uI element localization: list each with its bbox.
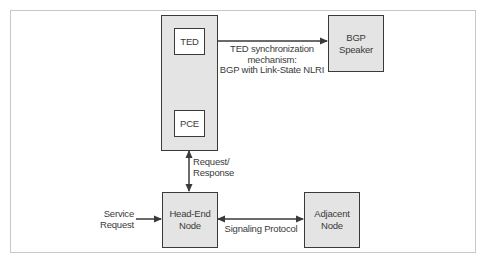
request-response-line1: Request/ bbox=[193, 157, 234, 168]
signaling-label-text: Signaling Protocol bbox=[220, 224, 302, 235]
bgp-speaker-label-line1: BGP bbox=[339, 32, 373, 44]
ted-sync-label: TED synchronization mechanism: BGP with … bbox=[212, 44, 332, 76]
request-response-line2: Response bbox=[193, 168, 234, 179]
head-end-label-line1: Head-End bbox=[169, 208, 210, 220]
ted-node: TED bbox=[174, 28, 205, 55]
adjacent-label-line1: Adjacent bbox=[314, 208, 349, 220]
request-response-label: Request/ Response bbox=[193, 157, 234, 178]
bgp-speaker-label-line2: Speaker bbox=[339, 44, 373, 56]
signaling-label: Signaling Protocol bbox=[220, 224, 302, 235]
bgp-speaker-node: BGP Speaker bbox=[328, 15, 384, 72]
adjacent-label-line2: Node bbox=[314, 220, 349, 232]
head-end-node: Head-End Node bbox=[162, 192, 218, 248]
pce-node: PCE bbox=[174, 110, 205, 137]
pce-label: PCE bbox=[180, 118, 199, 130]
service-request-line2: Request bbox=[90, 220, 134, 231]
adjacent-node: Adjacent Node bbox=[304, 192, 360, 248]
ted-label: TED bbox=[180, 36, 198, 48]
head-end-label-line2: Node bbox=[169, 220, 210, 232]
service-request-label: Service Request bbox=[90, 209, 134, 230]
ted-sync-line1: TED synchronization bbox=[212, 44, 332, 55]
service-request-line1: Service bbox=[90, 209, 134, 220]
ted-sync-line3: BGP with Link-State NLRI bbox=[212, 65, 332, 76]
